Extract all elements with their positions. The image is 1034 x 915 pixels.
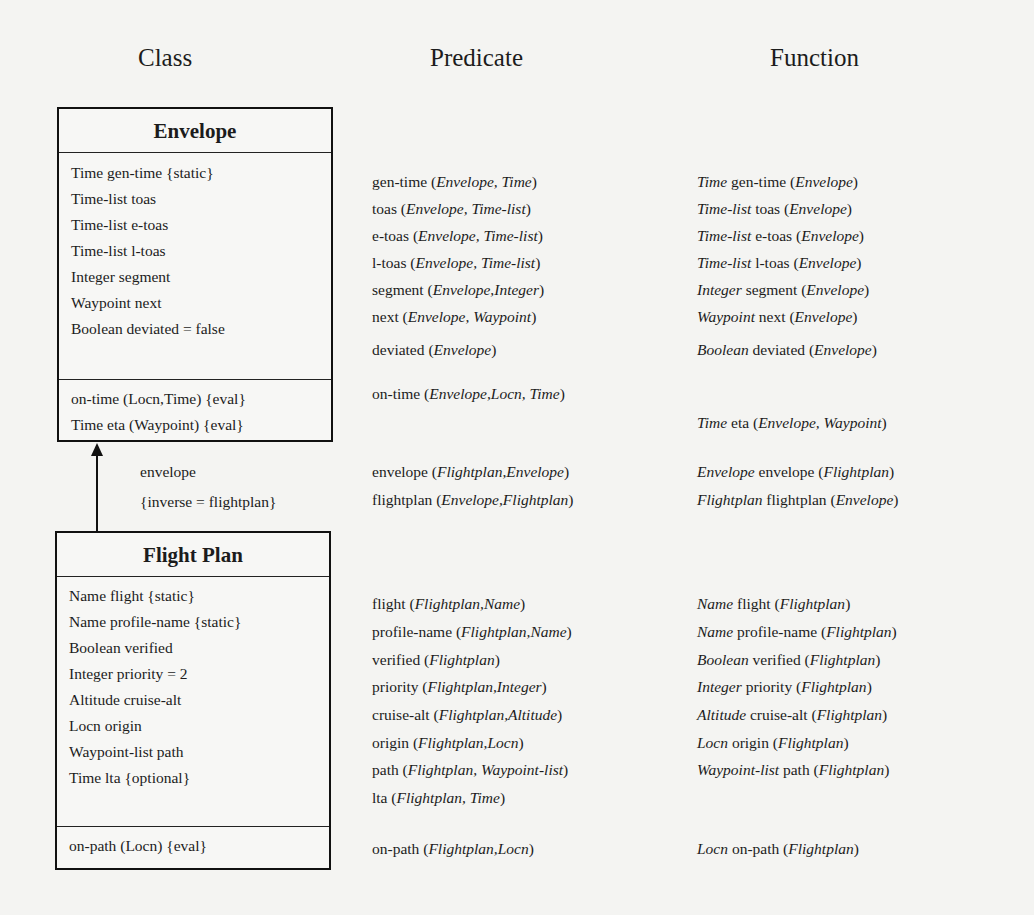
attribute: Integer segment xyxy=(59,264,331,290)
function-entry: Name profile-name (Flightplan) xyxy=(697,622,897,642)
attribute: Time lta {optional} xyxy=(57,765,329,791)
function-entry: Time-list toas (Envelope) xyxy=(697,199,852,219)
function-entry: Locn origin (Flightplan) xyxy=(697,733,849,753)
predicate-entry: flight (Flightplan,Name) xyxy=(372,594,525,614)
attribute: Time-list toas xyxy=(59,186,331,212)
function-entry: Altitude cruise-alt (Flightplan) xyxy=(697,705,887,725)
predicate-entry: e-toas (Envelope, Time-list) xyxy=(372,226,543,246)
predicate-entry: l-toas (Envelope, Time-list) xyxy=(372,253,540,273)
predicate-entry: origin (Flightplan,Locn) xyxy=(372,733,524,753)
attribute: Integer priority = 2 xyxy=(57,661,329,687)
function-entry: Time gen-time (Envelope) xyxy=(697,172,858,192)
predicate-entry: segment (Envelope,Integer) xyxy=(372,280,544,300)
function-entry: Waypoint next (Envelope) xyxy=(697,307,857,327)
function-entry: Time-list l-toas (Envelope) xyxy=(697,253,861,273)
envelope-attributes: Time gen-time {static} Time-list toas Ti… xyxy=(59,153,331,380)
attribute: Boolean deviated = false xyxy=(59,316,331,342)
envelope-class-box: Envelope Time gen-time {static} Time-lis… xyxy=(57,107,333,442)
predicate-entry: profile-name (Flightplan,Name) xyxy=(372,622,572,642)
function-entry: Integer segment (Envelope) xyxy=(697,280,869,300)
attribute: Time gen-time {static} xyxy=(59,160,331,186)
function-entry: Boolean verified (Flightplan) xyxy=(697,650,880,670)
predicate-entry: on-time (Envelope,Locn, Time) xyxy=(372,384,565,404)
flightplan-operations: on-path (Locn) {eval} xyxy=(57,827,329,859)
function-entry: Flightplan flightplan (Envelope) xyxy=(697,490,898,510)
operation: on-time (Locn,Time) {eval} xyxy=(59,386,331,412)
predicate-entry: on-path (Flightplan,Locn) xyxy=(372,839,534,859)
predicate-entry: verified (Flightplan) xyxy=(372,650,500,670)
predicate-entry: toas (Envelope, Time-list) xyxy=(372,199,531,219)
predicate-entry: deviated (Envelope) xyxy=(372,340,496,360)
function-entry: Time-list e-toas (Envelope) xyxy=(697,226,864,246)
column-header-class: Class xyxy=(138,44,192,72)
attribute: Altitude cruise-alt xyxy=(57,687,329,713)
operation: on-path (Locn) {eval} xyxy=(57,833,329,859)
envelope-class-title: Envelope xyxy=(59,109,331,153)
function-entry: Integer priority (Flightplan) xyxy=(697,677,872,697)
attribute: Waypoint-list path xyxy=(57,739,329,765)
attribute: Time-list l-toas xyxy=(59,238,331,264)
envelope-operations: on-time (Locn,Time) {eval} Time eta (Way… xyxy=(59,380,331,438)
function-entry: Time eta (Envelope, Waypoint) xyxy=(697,413,887,433)
flightplan-attributes: Name flight {static} Name profile-name {… xyxy=(57,577,329,827)
attribute: Name flight {static} xyxy=(57,583,329,609)
flightplan-class-title: Flight Plan xyxy=(57,533,329,577)
association-line xyxy=(96,455,98,532)
predicate-entry: lta (Flightplan, Time) xyxy=(372,788,505,808)
predicate-entry: gen-time (Envelope, Time) xyxy=(372,172,537,192)
attribute: Name profile-name {static} xyxy=(57,609,329,635)
predicate-entry: path (Flightplan, Waypoint-list) xyxy=(372,760,568,780)
attribute: Time-list e-toas xyxy=(59,212,331,238)
association-role: envelope xyxy=(140,462,196,482)
attribute: Boolean verified xyxy=(57,635,329,661)
predicate-entry: cruise-alt (Flightplan,Altitude) xyxy=(372,705,562,725)
function-entry: Locn on-path (Flightplan) xyxy=(697,839,859,859)
function-entry: Envelope envelope (Flightplan) xyxy=(697,462,894,482)
predicate-entry: envelope (Flightplan,Envelope) xyxy=(372,462,569,482)
association-constraint: {inverse = flightplan} xyxy=(140,492,276,512)
function-entry: Boolean deviated (Envelope) xyxy=(697,340,877,360)
predicate-entry: flightplan (Envelope,Flightplan) xyxy=(372,490,573,510)
attribute: Waypoint next xyxy=(59,290,331,316)
operation: Time eta (Waypoint) {eval} xyxy=(59,412,331,438)
column-header-function: Function xyxy=(770,44,859,72)
attribute: Locn origin xyxy=(57,713,329,739)
predicate-entry: next (Envelope, Waypoint) xyxy=(372,307,536,327)
predicate-entry: priority (Flightplan,Integer) xyxy=(372,677,547,697)
column-header-predicate: Predicate xyxy=(430,44,523,72)
function-entry: Waypoint-list path (Flightplan) xyxy=(697,760,889,780)
function-entry: Name flight (Flightplan) xyxy=(697,594,850,614)
flightplan-class-box: Flight Plan Name flight {static} Name pr… xyxy=(55,531,331,870)
